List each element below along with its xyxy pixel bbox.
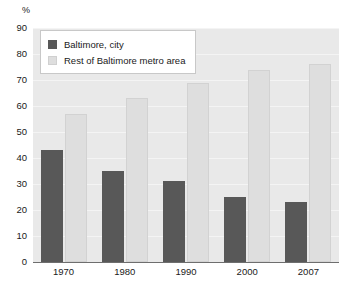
bar [126, 98, 148, 262]
bar-group [217, 28, 278, 262]
bar [163, 181, 185, 262]
y-axis-tick-label: 60 [16, 101, 27, 111]
y-axis: 9080706050403020100 [0, 22, 33, 268]
bar [285, 202, 307, 262]
y-axis-tick-label: 0 [22, 257, 27, 267]
x-axis-tick-label: 1990 [175, 266, 196, 277]
legend-item-baltimore-city: Baltimore, city [48, 36, 185, 52]
x-axis-tick-label: 2007 [298, 266, 319, 277]
x-axis-tick-label: 1980 [114, 266, 135, 277]
x-axis-tick-label: 1970 [53, 266, 74, 277]
legend-swatch-icon-baltimore-city [48, 40, 57, 49]
legend-label-baltimore-city: Baltimore, city [64, 39, 124, 50]
y-axis-tick-label: 20 [16, 205, 27, 215]
bar [224, 197, 246, 262]
y-axis-tick-label: 50 [16, 127, 27, 137]
bar [309, 64, 331, 262]
bar [187, 83, 209, 262]
bar [65, 114, 87, 262]
y-axis-tick-label: 30 [16, 179, 27, 189]
bar [248, 70, 270, 262]
bar [41, 150, 63, 262]
x-axis: 19701980199020002007 [33, 264, 339, 282]
y-axis-tick-label: 40 [16, 153, 27, 163]
y-axis-unit-label: % [22, 5, 30, 15]
chart-legend: Baltimore, city Rest of Baltimore metro … [40, 30, 196, 74]
y-axis-tick-label: 80 [16, 49, 27, 59]
legend-item-rest-of-metro: Rest of Baltimore metro area [48, 52, 185, 68]
bar-group [278, 28, 339, 262]
legend-swatch-icon-rest-of-metro [48, 56, 57, 65]
y-axis-tick-label: 70 [16, 75, 27, 85]
legend-label-rest-of-metro: Rest of Baltimore metro area [64, 55, 185, 66]
bar-chart: % 9080706050403020100 Baltimore, city Re… [0, 0, 344, 284]
bar [102, 171, 124, 262]
y-axis-tick-label: 10 [16, 231, 27, 241]
x-axis-tick-label: 2000 [237, 266, 258, 277]
y-axis-tick-label: 90 [16, 23, 27, 33]
